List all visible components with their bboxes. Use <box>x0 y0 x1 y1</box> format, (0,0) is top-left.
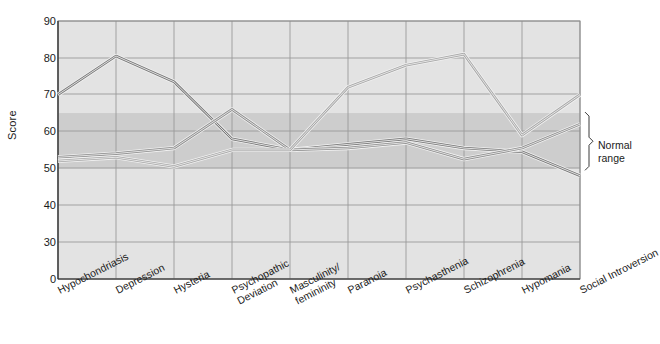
normal-range-bracket <box>585 112 593 170</box>
normal-range-label: Normal range <box>598 139 632 165</box>
